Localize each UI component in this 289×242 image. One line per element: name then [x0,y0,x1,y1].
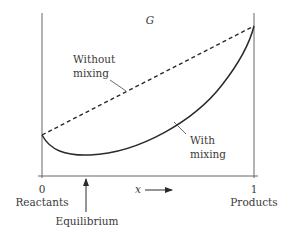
x-axis-label: x [135,183,141,195]
with-mixing-curve [42,26,254,155]
y-axis-label: G [146,14,154,26]
x-tick-1: 1 [251,183,258,195]
x-tick-1-caption: Products [230,196,277,208]
with-mixing-label: With [190,134,215,146]
with-mixing-label-2: mixing [190,148,226,160]
x-tick-0-caption: Reactants [15,196,68,208]
without-mixing-label-2: mixing [73,67,109,79]
without-mixing-label: Without [73,53,116,65]
x-tick-0: 0 [39,183,46,195]
equilibrium-label: Equilibrium [55,215,118,227]
without-mixing-line [42,26,254,135]
gibbs-energy-diagram: G Without mixing With mixing 0 Reactants… [0,0,289,242]
without-mixing-leader [110,80,126,91]
